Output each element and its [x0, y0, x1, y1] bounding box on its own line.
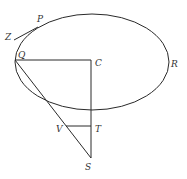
- tangent-line-zp: [14, 27, 38, 40]
- label-s: S: [85, 162, 91, 172]
- label-z: Z: [4, 32, 12, 42]
- ellipse-curve: [15, 14, 169, 110]
- label-q: Q: [18, 50, 26, 60]
- label-t: T: [95, 124, 102, 134]
- label-v: V: [56, 124, 64, 134]
- label-r: R: [170, 59, 178, 69]
- label-p: P: [36, 14, 44, 24]
- ellipse-diagram: P Z Q C R V T S: [0, 0, 187, 179]
- label-c: C: [95, 58, 102, 68]
